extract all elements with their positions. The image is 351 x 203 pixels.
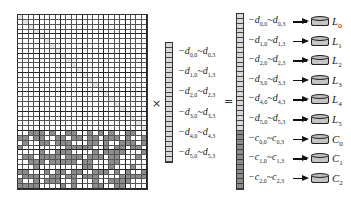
disk-icon (311, 36, 329, 47)
data-segment-label: −d5,0~d5,3 (178, 146, 215, 159)
arrow-icon (293, 158, 307, 160)
data-segment-label: −d4,0~d4,3 (178, 126, 215, 139)
disk-icon (311, 75, 329, 86)
disk-icon (311, 153, 329, 164)
result-segment-label: −d0,0~d0,3 (248, 14, 285, 27)
result-segment-label: −d4,0~d4,3 (248, 92, 285, 105)
data-segment-label: −d1,0~d1,3 (178, 65, 215, 78)
result-segment-label: −d2,0~d2,3 (248, 53, 285, 66)
encoding-matrix (17, 14, 148, 190)
disk-label: L5 (332, 113, 342, 128)
vector-cell (237, 184, 243, 189)
result-segment-label: −c1,0~c1,3 (248, 151, 284, 164)
multiply-operator: × (152, 97, 161, 110)
data-segment-label: −d3,0~d3,3 (178, 106, 215, 119)
disk-label: L4 (332, 93, 342, 108)
disk-label: L0 (332, 15, 342, 30)
result-segment-label: −c2,0~c2,3 (248, 171, 284, 184)
disk-icon (311, 16, 329, 27)
disk-icon (311, 134, 329, 145)
result-segment-label: −c0,0~c0,3 (248, 132, 284, 145)
vector-cell (166, 157, 172, 162)
arrow-icon (293, 119, 307, 121)
disk-label: L2 (332, 54, 342, 69)
arrow-icon (293, 178, 307, 180)
disk-label: C0 (332, 133, 343, 148)
disk-label: C2 (332, 172, 343, 187)
disk-icon (311, 114, 329, 125)
arrow-icon (293, 60, 307, 62)
matrix-cell (142, 184, 147, 189)
arrow-icon (293, 21, 307, 23)
data-vector (165, 42, 173, 163)
result-segment-label: −d3,0~d3,3 (248, 73, 285, 86)
disk-icon (311, 173, 329, 184)
result-vector (236, 13, 244, 190)
disk-label: L3 (332, 74, 342, 89)
data-segment-label: −d2,0~d2,3 (178, 85, 215, 98)
disk-icon (311, 55, 329, 66)
equals-operator: = (224, 95, 233, 108)
arrow-icon (293, 99, 307, 101)
disk-label: L1 (332, 35, 342, 50)
data-segment-label: −d0,0~d0,3 (178, 45, 215, 58)
disk-icon (311, 94, 329, 105)
result-segment-label: −d5,0~d5,3 (248, 112, 285, 125)
arrow-icon (293, 41, 307, 43)
arrow-icon (293, 139, 307, 141)
arrow-icon (293, 80, 307, 82)
result-segment-label: −d1,0~d1,3 (248, 34, 285, 47)
disk-label: C1 (332, 152, 343, 167)
